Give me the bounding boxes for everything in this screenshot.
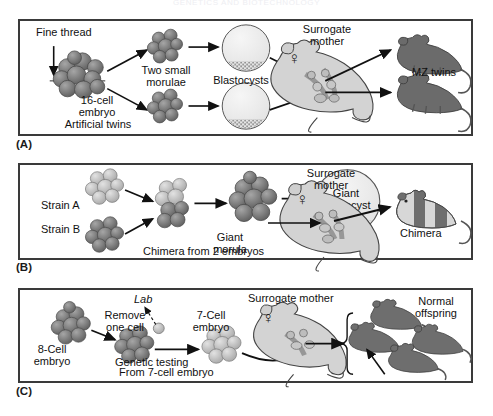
small-morula-bottom — [147, 89, 182, 123]
female-symbol-a: ♀ — [288, 53, 301, 65]
blastocyst-top — [222, 25, 270, 73]
running-header: GENETICS AND BIOTECHNOLOGY — [0, 0, 493, 8]
label-lab: Lab — [134, 294, 152, 306]
label-artificial-twins: Artificial twins — [40, 119, 156, 131]
label-mz-twins: MZ twins — [412, 67, 456, 79]
female-symbol-c: ♀ — [262, 312, 274, 324]
label-surrogate-mother-b-line1: Surrogate — [290, 168, 372, 180]
panel-label-a: (A) — [16, 138, 32, 150]
label-16-cell-embryo-line2: embryo — [67, 107, 127, 119]
eight-cell-embryo — [51, 301, 90, 344]
label-normal-offspring-line1: Normal — [400, 296, 472, 308]
panel-label-b: (B) — [16, 261, 32, 273]
label-8-cell-embryo-line1: 8-Cell — [24, 344, 80, 356]
label-surrogate-mother-a-line1: Surrogate — [286, 24, 368, 36]
mz-twin-mouse-bottom — [397, 73, 471, 131]
blastocyst-bottom — [222, 83, 270, 131]
label-7-cell-embryo-line1: 7-Cell — [178, 310, 244, 322]
label-16-cell-embryo-line1: 16-cell — [67, 95, 127, 107]
panel-label-c: (C) — [16, 385, 32, 397]
label-fine-thread: Fine thread — [36, 27, 92, 39]
panel-b-right-graphics — [18, 163, 473, 260]
label-remove-one-cell-line1: Remove — [90, 310, 160, 322]
surrogate-mother-mouse-b — [280, 181, 379, 271]
label-normal-offspring-line2: offspring — [400, 308, 472, 320]
label-8-cell-embryo-line2: embryo — [24, 356, 80, 368]
label-blastocysts: Blastocysts — [196, 75, 286, 87]
label-remove-one-cell-line2: one cell — [90, 322, 160, 334]
label-from-7-cell-embryo: From 7-cell embryo — [119, 367, 214, 379]
label-surrogate-mother-a-line2: mother — [286, 36, 368, 48]
small-morula-top — [147, 29, 182, 63]
label-7-cell-embryo-line2: embryo — [178, 322, 244, 334]
female-symbol-b: ♀ — [296, 194, 309, 206]
label-chimera: Chimera — [400, 228, 442, 240]
sixteen-cell-embryo — [53, 51, 105, 98]
label-surrogate-mother-c: Surrogate mother — [248, 293, 334, 305]
surrogate-mother-mouse-a — [271, 40, 373, 132]
